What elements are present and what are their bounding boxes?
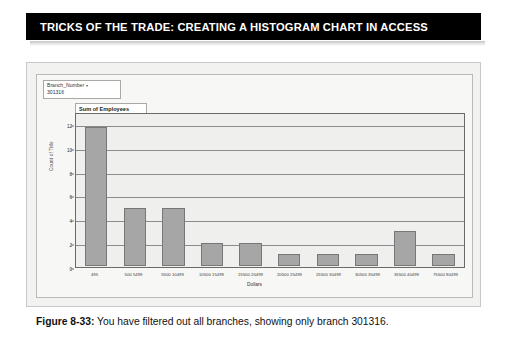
access-chart-canvas: Branch_Number ▾ 301316 Sum of Employees …	[36, 74, 473, 298]
histogram-bar[interactable]	[124, 208, 146, 266]
banner-shadow	[30, 41, 485, 46]
x-axis-tick-label: 495	[91, 270, 98, 277]
x-axis-tick-label: 20500 25499	[277, 270, 302, 277]
x-axis-tick-label: 5500 10499	[161, 270, 184, 277]
banner-title: TRICKS OF THE TRADE: CREATING A HISTOGRA…	[26, 21, 428, 33]
bar-slot	[386, 115, 425, 266]
x-axis-tick-label: 30500 35499	[355, 270, 380, 277]
y-axis-tick-mark	[71, 245, 74, 246]
bar-slot	[193, 115, 232, 266]
bar-slot	[309, 115, 348, 266]
x-axis-label-slot: 75500 80499	[426, 270, 465, 282]
filter-selected-value: 301316	[47, 89, 117, 96]
x-axis-tick-label: 25500 30499	[316, 270, 341, 277]
histogram-bar[interactable]	[239, 243, 261, 266]
bar-slot	[77, 115, 116, 266]
filter-field-label: Branch_Number	[47, 82, 84, 89]
bar-slot	[347, 115, 386, 266]
x-axis-tick-label: 500 5499	[125, 270, 143, 277]
figure-number: Figure 8-33:	[36, 316, 94, 327]
y-axis-tick-mark	[71, 125, 74, 126]
histogram-bar[interactable]	[162, 208, 184, 266]
y-axis-ticks: 024681012	[57, 113, 74, 270]
figure-image: Branch_Number ▾ 301316 Sum of Employees …	[26, 62, 481, 307]
x-axis-tick-label: 35500 40499	[394, 270, 419, 277]
y-axis-title: Count of Title	[49, 141, 54, 171]
bars-layer	[77, 115, 463, 266]
histogram-bar[interactable]	[432, 254, 454, 266]
y-axis-tick-mark	[71, 221, 74, 222]
y-axis-tick-mark	[71, 149, 74, 150]
x-axis-tick-label: 75500 80499	[433, 270, 458, 277]
bar-slot	[231, 115, 270, 266]
y-axis-tick-mark	[71, 269, 74, 270]
x-axis-label-slot: 35500 40499	[387, 270, 426, 282]
x-axis-label-slot: 15500 20499	[231, 270, 270, 282]
x-axis-label-slot: 5500 10499	[153, 270, 192, 282]
bar-slot	[116, 115, 155, 266]
x-axis-label-slot: 25500 30499	[309, 270, 348, 282]
figure-caption-text: You have filtered out all branches, show…	[94, 316, 388, 327]
histogram-bar[interactable]	[355, 254, 377, 266]
bar-slot	[270, 115, 309, 266]
x-axis-title: Dollars	[37, 282, 472, 287]
y-axis-tick-mark	[71, 197, 74, 198]
bar-slot	[424, 115, 463, 266]
x-axis-labels: 495500 54995500 1049910500 1549915500 20…	[75, 270, 465, 282]
histogram-bar[interactable]	[317, 254, 339, 266]
x-axis-label-slot: 10500 15499	[192, 270, 231, 282]
x-axis-tick-label: 10500 15499	[199, 270, 224, 277]
bar-slot	[154, 115, 193, 266]
histogram-bar[interactable]	[394, 231, 416, 266]
x-axis-label-slot: 495	[75, 270, 114, 282]
figure-caption: Figure 8-33: You have filtered out all b…	[36, 316, 476, 327]
x-axis-label-slot: 20500 25499	[270, 270, 309, 282]
histogram-bar[interactable]	[85, 127, 107, 266]
y-axis-tick-mark	[71, 173, 74, 174]
filter-field-row[interactable]: Branch_Number ▾	[47, 82, 117, 89]
histogram-bar[interactable]	[201, 243, 223, 266]
branch-number-filter[interactable]: Branch_Number ▾ 301316	[43, 80, 121, 99]
x-axis-tick-label: 15500 20499	[238, 270, 263, 277]
x-axis-label-slot: 30500 35499	[348, 270, 387, 282]
chevron-down-icon[interactable]: ▾	[86, 83, 88, 88]
plot-area	[75, 113, 465, 268]
x-axis-label-slot: 500 5499	[114, 270, 153, 282]
plot-wrapper	[75, 113, 465, 268]
series-title-label: Sum of Employees	[76, 106, 129, 112]
section-banner: TRICKS OF THE TRADE: CREATING A HISTOGRA…	[26, 13, 481, 40]
histogram-bar[interactable]	[278, 254, 300, 266]
